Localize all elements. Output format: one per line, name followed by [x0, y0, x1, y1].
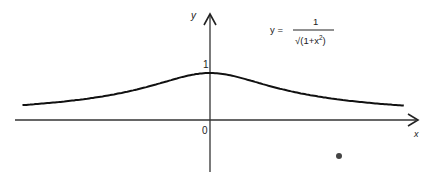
peak-label: 1: [203, 59, 209, 70]
curve-path: [23, 73, 404, 106]
equation-numerator: 1: [313, 16, 318, 27]
x-axis-label: x: [413, 129, 419, 139]
y-axis-label: y: [190, 10, 197, 21]
ink-dot: [336, 153, 342, 159]
function-plot: y x 0 1 y = 1 √(1+x2): [0, 0, 431, 180]
equation: y = 1 √(1+x2): [270, 16, 334, 46]
equation-lhs: y =: [270, 24, 283, 35]
origin-label: 0: [202, 125, 208, 136]
equation-denominator-base: √(1+x2): [295, 34, 326, 46]
